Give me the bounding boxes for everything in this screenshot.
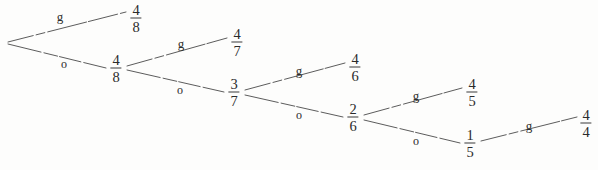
tree-internal-node: 26 — [347, 102, 358, 133]
edge-label-o: o — [61, 58, 67, 70]
edge-label-g: g — [413, 89, 420, 102]
edge-label-o: o — [177, 84, 183, 96]
tree-edge — [8, 12, 126, 42]
fraction-numerator: 3 — [228, 77, 239, 93]
fraction-numerator: 2 — [347, 102, 358, 118]
fraction-denominator: 8 — [130, 19, 141, 34]
tree-edge — [364, 120, 460, 143]
tree-edge — [8, 44, 106, 68]
fraction-numerator: 4 — [580, 108, 591, 124]
tree-leaf-node: 45 — [466, 77, 477, 108]
edge-label-g: g — [57, 10, 64, 23]
tree-leaf-node: 46 — [349, 52, 360, 83]
edge-label-o: o — [413, 135, 419, 147]
fraction-denominator: 5 — [464, 144, 475, 159]
tree-edge — [245, 95, 343, 117]
fraction-denominator: 7 — [228, 93, 239, 108]
tree-leaf-node: 47 — [231, 27, 242, 58]
edge-label-g: g — [526, 119, 533, 132]
fraction-denominator: 5 — [466, 93, 477, 108]
tree-edge — [127, 70, 224, 92]
fraction-numerator: 4 — [231, 27, 242, 43]
edges-group — [8, 12, 577, 143]
edge-label-o: o — [296, 109, 302, 121]
tree-edges-layer — [0, 0, 598, 170]
fraction-numerator: 4 — [466, 77, 477, 93]
fraction-numerator: 4 — [110, 53, 121, 69]
decision-tree-diagram: gogogogog 483726154847464544 — [0, 0, 598, 170]
edge-label-g: g — [296, 64, 303, 77]
tree-internal-node: 37 — [228, 77, 239, 108]
fraction-numerator: 1 — [464, 128, 475, 144]
edge-label-g: g — [178, 37, 185, 50]
tree-internal-node: 48 — [110, 53, 121, 84]
fraction-denominator: 6 — [349, 68, 360, 83]
fraction-denominator: 8 — [110, 69, 121, 84]
fraction-numerator: 4 — [130, 3, 141, 19]
fraction-denominator: 6 — [347, 118, 358, 133]
fraction-denominator: 7 — [231, 43, 242, 58]
tree-leaf-node: 48 — [130, 3, 141, 34]
fraction-denominator: 4 — [580, 124, 591, 139]
tree-leaf-node: 44 — [580, 108, 591, 139]
tree-internal-node: 15 — [464, 128, 475, 159]
fraction-numerator: 4 — [349, 52, 360, 68]
